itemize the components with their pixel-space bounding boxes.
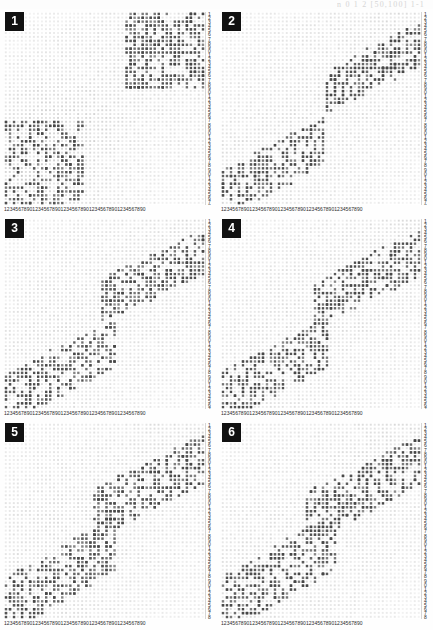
- y-tick-label: 7: [424, 407, 427, 409]
- scatter-panel-4[interactable]: 4 12345678901234567890123456789012345678…: [217, 216, 433, 420]
- page-root: n 0 1 2 [50,100] 1-1 1 12345678901234567…: [0, 0, 433, 630]
- plot-area-4[interactable]: [221, 219, 421, 409]
- panel-badge-1: 1: [6, 13, 23, 30]
- panel-badge-label-2: 2: [223, 13, 240, 30]
- panel-grid: 1 12345678901234567890123456789012345678…: [0, 9, 433, 630]
- panel-badge-label-5: 5: [6, 424, 23, 441]
- scatter-canvas-3: [4, 219, 205, 409]
- y-tick-label: 8: [424, 204, 427, 205]
- scatter-canvas-6: [221, 423, 421, 619]
- y-axis-ticks-3: 1234567890123456789012345678901234567890…: [205, 219, 216, 409]
- scatter-canvas-4: [221, 219, 421, 409]
- scatter-panel-3[interactable]: 3 12345678901234567890123456789012345678…: [0, 216, 217, 420]
- y-tick-label: 8: [208, 204, 211, 205]
- panel-badge-label-1: 1: [6, 13, 23, 30]
- plot-area-2[interactable]: [221, 12, 421, 205]
- x-axis-ticks-2: 1234567890123456789012345678901234567890…: [221, 205, 421, 216]
- scatter-panel-1[interactable]: 1 12345678901234567890123456789012345678…: [0, 9, 217, 216]
- panel-badge-2: 2: [223, 13, 240, 30]
- y-axis-ticks-5: 1234567890123456789012345678901234567890…: [205, 423, 216, 619]
- scatter-canvas-1: [4, 12, 205, 205]
- panel-badge-4: 4: [223, 220, 240, 237]
- plot-area-6[interactable]: [221, 423, 421, 619]
- scatter-canvas-2: [221, 12, 421, 205]
- plot-area-3[interactable]: [4, 219, 205, 409]
- header-formula-fragment: n 0 1 2 [50,100] 1-1: [337, 0, 425, 9]
- x-axis-ticks-1: 1234567890123456789012345678901234567890…: [4, 205, 205, 216]
- panel-badge-label-4: 4: [223, 220, 240, 237]
- scatter-panel-2[interactable]: 2 12345678901234567890123456789012345678…: [217, 9, 433, 216]
- x-axis-ticks-3: 1234567890123456789012345678901234567890…: [4, 409, 205, 420]
- scatter-panel-6[interactable]: 6 12345678901234567890123456789012345678…: [217, 420, 433, 630]
- y-axis-ticks-4: 1234567890123456789012345678901234567890…: [421, 219, 432, 409]
- scatter-panel-5[interactable]: 5 12345678901234567890123456789012345678…: [0, 420, 217, 630]
- y-axis-ticks-6: 1234567890123456789012345678901234567890…: [421, 423, 432, 619]
- y-axis-ticks-2: 1234567890123456789012345678901234567890…: [421, 12, 432, 205]
- panel-badge-3: 3: [6, 220, 23, 237]
- panel-badge-6: 6: [223, 424, 240, 441]
- y-axis-ticks-1: 1234567890123456789012345678901234567890…: [205, 12, 216, 205]
- panel-badge-label-6: 6: [223, 424, 240, 441]
- panel-badge-5: 5: [6, 424, 23, 441]
- x-axis-ticks-6: 1234567890123456789012345678901234567890…: [221, 619, 421, 630]
- panel-badge-label-3: 3: [6, 220, 23, 237]
- scatter-canvas-5: [4, 423, 205, 619]
- plot-area-5[interactable]: [4, 423, 205, 619]
- y-tick-label: 7: [208, 407, 211, 409]
- x-axis-ticks-5: 1234567890123456789012345678901234567890…: [4, 619, 205, 630]
- plot-area-1[interactable]: [4, 12, 205, 205]
- x-axis-ticks-4: 1234567890123456789012345678901234567890…: [221, 409, 421, 420]
